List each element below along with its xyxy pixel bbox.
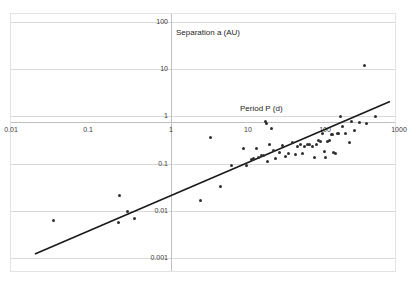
chart-figure: 100 10 1 0.1 0.01 0.001 0.01 0.1 1 10 10… xyxy=(0,0,417,287)
data-point xyxy=(344,132,347,135)
data-point xyxy=(230,164,233,167)
data-point xyxy=(303,145,306,148)
y-tick-label-100: 100 xyxy=(140,17,168,26)
x-tick-label-0.1: 0.1 xyxy=(71,125,105,134)
data-point xyxy=(324,156,327,159)
data-point xyxy=(358,121,361,124)
data-point xyxy=(262,154,265,157)
data-point xyxy=(287,152,290,155)
trendline xyxy=(0,0,417,287)
y-tick-label-1: 1 xyxy=(140,111,168,120)
x-tick-label-10: 10 xyxy=(231,125,265,134)
data-point xyxy=(363,64,366,67)
data-point xyxy=(278,151,281,154)
data-point xyxy=(274,157,277,160)
data-point xyxy=(133,217,136,220)
data-point xyxy=(219,185,222,188)
y-tick-label-0.01: 0.01 xyxy=(140,206,168,215)
data-point xyxy=(315,143,318,146)
y-tick-label-0.1: 0.1 xyxy=(140,159,168,168)
data-point xyxy=(255,147,258,150)
x-tick-label-1000: 1000 xyxy=(382,125,416,134)
data-point xyxy=(353,129,356,132)
data-point xyxy=(341,125,344,128)
x-axis-title: Period P (d) xyxy=(240,104,283,114)
data-point xyxy=(296,145,299,148)
data-point xyxy=(374,115,377,118)
gridline-y-1 xyxy=(11,116,395,117)
data-point xyxy=(337,132,340,135)
data-point xyxy=(299,143,302,146)
data-point xyxy=(199,199,202,202)
data-point xyxy=(301,152,304,155)
y-tick-label-10: 10 xyxy=(140,64,168,73)
data-point xyxy=(266,160,269,163)
data-point xyxy=(257,156,260,159)
data-point xyxy=(334,152,337,155)
data-point xyxy=(291,141,294,144)
data-point xyxy=(281,144,284,147)
data-point xyxy=(313,156,316,159)
gridline-y-0.1 xyxy=(11,164,395,165)
data-point xyxy=(284,155,287,158)
y-tick-label-0.001: 0.001 xyxy=(140,253,168,262)
data-point xyxy=(272,149,275,152)
data-point xyxy=(265,122,268,125)
data-point xyxy=(242,147,245,150)
gridline-y-100 xyxy=(11,22,395,23)
data-point xyxy=(319,140,322,143)
data-point xyxy=(331,133,334,136)
data-point xyxy=(294,153,297,156)
gridline-y-0.001 xyxy=(11,258,395,259)
data-point xyxy=(328,139,331,142)
data-point xyxy=(118,194,121,197)
data-point xyxy=(52,219,55,222)
data-point xyxy=(365,122,368,125)
data-point xyxy=(252,157,255,160)
data-point xyxy=(270,127,273,130)
gridline-y-0.01 xyxy=(11,211,395,212)
data-point xyxy=(209,136,212,139)
data-point xyxy=(323,150,326,153)
plot-area: 100 10 1 0.1 0.01 0.001 0.01 0.1 1 10 10… xyxy=(0,0,417,287)
gridline-y-10 xyxy=(11,69,395,70)
data-point xyxy=(321,132,324,135)
data-point xyxy=(348,141,351,144)
data-point xyxy=(311,145,314,148)
x-tick-label-0.01: 0.01 xyxy=(0,125,28,134)
x-axis-line xyxy=(11,122,395,123)
data-point xyxy=(117,221,120,224)
data-point xyxy=(339,115,342,118)
x-tick-label-1: 1 xyxy=(154,125,188,134)
data-point xyxy=(245,164,248,167)
data-point xyxy=(126,210,129,213)
y-axis-title: Separation a (AU) xyxy=(176,28,240,38)
data-point xyxy=(268,143,271,146)
y-axis-line xyxy=(171,14,172,271)
